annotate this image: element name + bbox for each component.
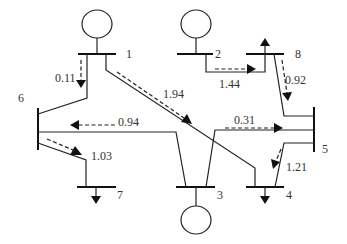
bus-3-label: 3 [217, 188, 223, 202]
flow-label-2-8: 1.44 [219, 77, 240, 91]
bus-6-label: 6 [18, 91, 24, 105]
bus-8: 8 [246, 38, 301, 61]
flow-arrow-1-6-icon [76, 80, 86, 88]
flow-arrows [47, 60, 292, 169]
flow-arrow-6-7-icon [70, 146, 82, 155]
flow-arrow-3-5-icon [274, 123, 283, 133]
line-6-3 [38, 132, 186, 187]
flow-label-3-6: 0.94 [118, 115, 139, 129]
bus-5: 5 [314, 107, 328, 156]
bus-7: 7 [77, 187, 123, 204]
generator-3-icon [181, 206, 211, 234]
bus-4: 4 [246, 187, 292, 204]
bus-6: 6 [18, 91, 38, 150]
flow-arrow-8-5-icon [282, 92, 292, 101]
flow-label-6-7: 1.03 [91, 149, 112, 163]
bus-2: 2 [177, 10, 221, 61]
bus-3: 3 [176, 187, 223, 234]
transmission-lines [38, 54, 314, 187]
flow-arrow-1-4-icon [181, 114, 192, 124]
flow-label-3-5: 0.31 [234, 113, 255, 127]
line-6-7 [38, 143, 86, 187]
line-3-5 [206, 130, 314, 187]
bus-8-label: 8 [295, 47, 301, 61]
load-4-arrow-icon [260, 196, 270, 204]
bus-1: 1 [78, 10, 132, 61]
load-8-arrow-icon [260, 38, 270, 46]
generator-1-icon [82, 10, 112, 38]
flow-label-8-5: 0.92 [285, 73, 306, 87]
bus-2-label: 2 [215, 47, 221, 61]
bus-4-label: 4 [286, 188, 292, 202]
load-7-arrow-icon [91, 196, 101, 204]
bus-1-label: 1 [126, 47, 132, 61]
flow-label-1-6: 0.11 [55, 71, 76, 85]
bus-7-label: 7 [117, 188, 123, 202]
flow-label-1-4: 1.94 [163, 87, 184, 101]
flow-label-5-4: 1.21 [286, 160, 307, 174]
generator-2-icon [181, 10, 211, 38]
flow-arrow-3-6-icon [70, 120, 79, 130]
power-system-diagram: 1 2 8 6 5 7 3 4 [0, 0, 347, 244]
bus-5-label: 5 [322, 142, 328, 156]
